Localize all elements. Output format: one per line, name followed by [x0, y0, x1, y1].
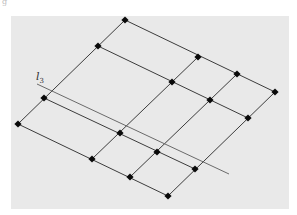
corner-glyph: g: [2, 0, 7, 6]
diagram-background: [11, 16, 289, 209]
grid-diagram: g l3: [0, 0, 297, 215]
line-label-subscript: 3: [40, 77, 44, 85]
